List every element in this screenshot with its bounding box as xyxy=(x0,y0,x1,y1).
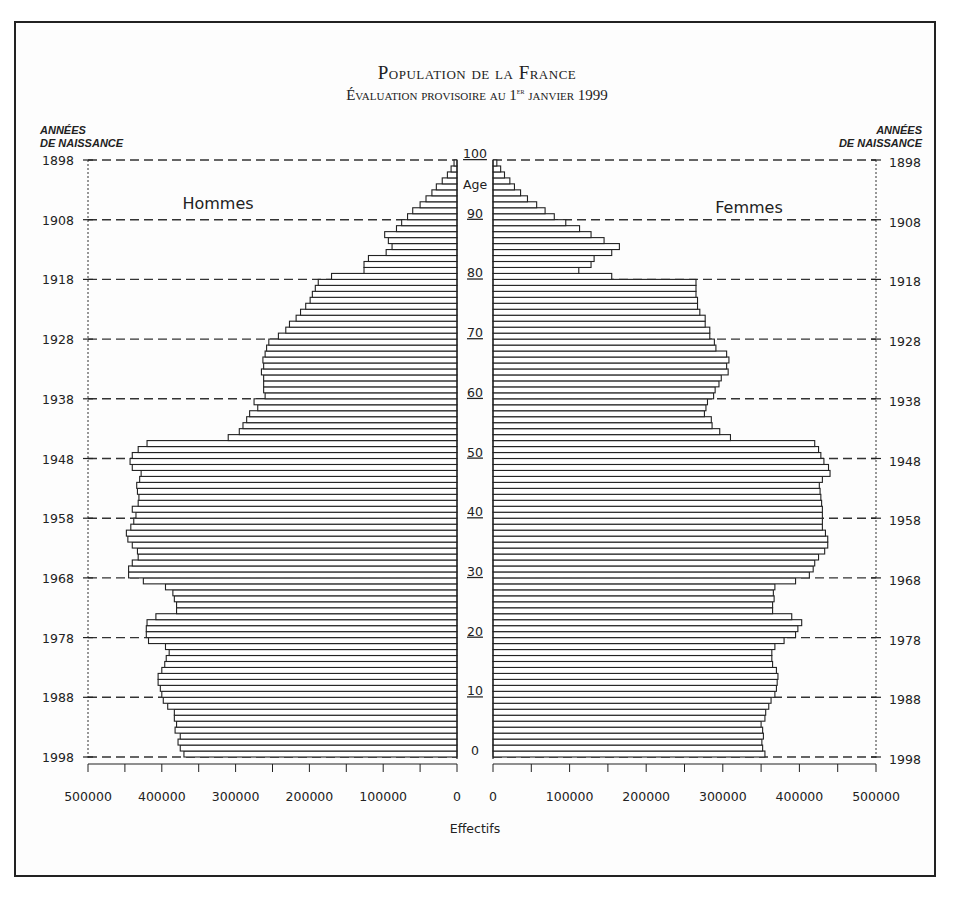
bar-men-age-47 xyxy=(141,470,457,476)
bar-men-age-4 xyxy=(175,727,457,733)
bar-women-age-59 xyxy=(493,399,707,405)
bar-men-age-92 xyxy=(420,202,457,208)
age-tick-label: 30 xyxy=(467,564,483,579)
bar-women-age-68 xyxy=(493,345,716,351)
year-label-left: 1898 xyxy=(42,153,74,168)
year-label-right: 1978 xyxy=(889,633,921,648)
bar-women-age-29 xyxy=(493,578,796,584)
bar-men-age-30 xyxy=(129,572,457,578)
bar-men-age-2 xyxy=(178,739,457,745)
bar-women-age-52 xyxy=(493,441,815,447)
bar-men-age-35 xyxy=(132,542,457,548)
bar-men-age-15 xyxy=(165,661,457,667)
bar-women-age-60 xyxy=(493,393,714,399)
bar-women-age-89 xyxy=(493,220,566,226)
bar-men-age-97 xyxy=(447,172,457,178)
bar-men-age-29 xyxy=(143,578,457,584)
bar-women-age-93 xyxy=(493,196,527,202)
bar-men-age-56 xyxy=(247,417,457,423)
x-tick-label: 300000 xyxy=(699,789,747,804)
bar-women-age-23 xyxy=(493,614,792,620)
bar-women-age-73 xyxy=(493,315,705,321)
bar-men-age-16 xyxy=(166,656,457,662)
bar-men-age-20 xyxy=(146,632,457,638)
year-label-right: 1898 xyxy=(889,155,921,170)
age-tick-label: 90 xyxy=(467,206,483,221)
year-label-left: 1958 xyxy=(42,511,74,526)
bar-men-age-68 xyxy=(267,345,457,351)
bar-women-age-47 xyxy=(493,470,830,476)
bar-men-age-67 xyxy=(265,351,457,357)
bar-women-age-13 xyxy=(493,673,778,679)
bar-women-age-98 xyxy=(493,166,501,172)
bar-women-age-30 xyxy=(493,572,809,578)
bar-women-age-1 xyxy=(493,745,763,751)
bar-women-age-18 xyxy=(493,644,775,650)
bar-men-age-69 xyxy=(269,339,457,345)
year-label-left: 1998 xyxy=(42,750,74,765)
bar-men-age-62 xyxy=(264,381,457,387)
bar-men-age-71 xyxy=(286,327,457,333)
bar-women-age-87 xyxy=(493,232,591,238)
bar-women-age-55 xyxy=(493,423,712,429)
bar-men-age-17 xyxy=(169,650,457,656)
bar-women-age-42 xyxy=(493,500,822,506)
bar-women-age-90 xyxy=(493,214,554,220)
year-label-left: 1948 xyxy=(42,452,74,467)
bar-women-age-77 xyxy=(493,291,696,297)
x-tick-label: 0 xyxy=(453,789,461,804)
bar-men-age-19 xyxy=(149,638,457,644)
women-label: Femmes xyxy=(715,198,783,217)
bar-men-age-60 xyxy=(265,393,457,399)
bar-men-age-70 xyxy=(278,333,457,339)
bar-men-age-44 xyxy=(137,488,457,494)
bar-women-age-67 xyxy=(493,351,727,357)
bar-men-age-63 xyxy=(264,375,457,381)
bar-women-age-34 xyxy=(493,548,825,554)
x-tick-label: 100000 xyxy=(546,789,594,804)
bar-men-age-54 xyxy=(239,429,457,435)
bar-men-age-88 xyxy=(396,226,457,232)
bar-men-age-27 xyxy=(173,590,457,596)
bar-women-age-2 xyxy=(493,739,762,745)
bar-men-age-32 xyxy=(132,560,457,566)
bar-men-age-55 xyxy=(243,423,457,429)
bar-men-age-8 xyxy=(168,703,457,709)
year-label-right: 1968 xyxy=(889,573,921,588)
bar-women-age-12 xyxy=(493,679,777,685)
bar-women-age-10 xyxy=(493,691,775,697)
bar-men-age-65 xyxy=(264,363,457,369)
bar-women-age-56 xyxy=(493,417,711,423)
bar-men-age-13 xyxy=(158,673,457,679)
bar-men-age-34 xyxy=(137,548,457,554)
bar-men-age-96 xyxy=(442,178,457,184)
bar-women-age-7 xyxy=(493,709,766,715)
bar-women-age-53 xyxy=(493,435,730,441)
x-tick-label: 200000 xyxy=(622,789,670,804)
bar-men-age-40 xyxy=(136,512,457,518)
bar-women-age-22 xyxy=(493,620,802,626)
women-bars xyxy=(493,160,830,757)
bar-women-age-5 xyxy=(493,721,761,727)
bar-men-age-14 xyxy=(162,667,457,673)
age-tick-label: 40 xyxy=(467,504,483,519)
bar-women-age-62 xyxy=(493,381,719,387)
x-tick-label: 500000 xyxy=(64,789,112,804)
x-tick-label: 400000 xyxy=(138,789,186,804)
bar-women-age-28 xyxy=(493,584,775,590)
bar-women-age-74 xyxy=(493,309,700,315)
bar-men-age-89 xyxy=(402,220,457,226)
bar-women-age-61 xyxy=(493,387,715,393)
bar-men-age-58 xyxy=(258,405,457,411)
age-tick-label: 10 xyxy=(467,683,483,698)
bar-men-age-76 xyxy=(310,297,457,303)
bar-women-age-51 xyxy=(493,447,819,453)
year-label-left: 1968 xyxy=(42,571,74,586)
bar-women-age-82 xyxy=(493,261,591,267)
bar-men-age-77 xyxy=(312,291,457,297)
bar-men-age-36 xyxy=(128,536,457,542)
bar-men-age-51 xyxy=(138,447,457,453)
bar-women-age-45 xyxy=(493,482,819,488)
bar-men-age-10 xyxy=(162,691,457,697)
bar-women-age-94 xyxy=(493,190,521,196)
